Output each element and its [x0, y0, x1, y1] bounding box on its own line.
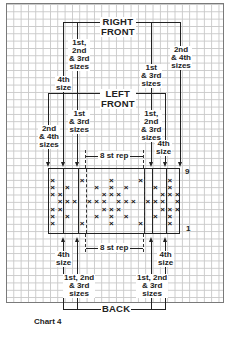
size-label-lf-24: 2nd & 4th sizes	[38, 125, 60, 149]
stitch-x-icon: ×	[56, 206, 63, 213]
stitch-chart: ××××××××××××××××××××××××××××××××××××××××…	[48, 168, 180, 234]
stitch-x-icon: ×	[93, 213, 100, 220]
size-label-rf-4th: 4th size	[55, 76, 72, 92]
size-label-lf-13: 1st & 3rd sizes	[68, 110, 90, 134]
stitch-x-icon: ×	[71, 198, 78, 205]
right-front-label: RIGHT FRONT	[100, 17, 136, 37]
stitch-x-icon: ×	[108, 191, 115, 198]
repeat-label-top: 8 st rep	[98, 151, 130, 160]
back-label: BACK	[101, 304, 131, 314]
right-front-4th-line	[63, 22, 64, 162]
stitch-x-icon: ×	[122, 184, 129, 191]
stitch-x-icon: ×	[115, 206, 122, 213]
stitch-x-icon: ×	[174, 206, 181, 213]
stitch-x-icon: ×	[166, 191, 173, 198]
right-front-24-line	[180, 22, 181, 162]
stitch-x-icon: ×	[49, 191, 56, 198]
stitch-x-icon: ×	[64, 198, 71, 205]
stitch-x-icon: ×	[152, 213, 159, 220]
size-label-bk-4th-left: 4th size	[55, 251, 72, 267]
stitch-x-icon: ×	[152, 184, 159, 191]
size-label-rf-24: 2nd & 4th sizes	[170, 46, 192, 70]
row-label-top: 9	[185, 167, 189, 176]
size-label-bk-123-left: 1st, 2nd & 3rd sizes	[63, 274, 95, 298]
arrow-down-icon	[149, 162, 153, 167]
stitch-x-icon: ×	[166, 220, 173, 227]
stitch-x-icon: ×	[78, 220, 85, 227]
size-label-rf-13: 1st & 3rd sizes	[140, 64, 162, 88]
repeat-label-bottom: 8 st rep	[98, 243, 130, 252]
repeat-dash-right-top	[143, 150, 144, 168]
repeat-dash-left-bottom	[85, 234, 86, 252]
stitch-x-icon: ×	[137, 177, 144, 184]
chart-title: Chart 4	[34, 317, 62, 326]
left-front-label: LEFT FRONT	[100, 89, 136, 109]
arrow-down-icon	[46, 162, 50, 167]
size-label-bk-123-right: 1st, 2nd & 3rd sizes	[136, 274, 168, 298]
stitch-x-icon: ×	[93, 184, 100, 191]
stitch-x-icon: ×	[100, 206, 107, 213]
stitch-x-icon: ×	[159, 206, 166, 213]
arrow-down-icon	[163, 162, 167, 167]
arrow-down-icon	[178, 162, 182, 167]
stitch-x-icon: ×	[144, 198, 151, 205]
stitch-x-icon: ×	[49, 220, 56, 227]
row-label-bottom: 1	[186, 224, 190, 233]
size-label-rf-123: 1st, 2nd & 3rd sizes	[68, 39, 90, 71]
stitch-x-icon: ×	[64, 184, 71, 191]
stitch-x-icon: ×	[130, 198, 137, 205]
repeat-dash-left-top	[85, 150, 86, 168]
stitch-x-icon: ×	[78, 177, 85, 184]
stitch-x-icon: ×	[64, 213, 71, 220]
stitch-x-icon: ×	[93, 198, 100, 205]
stitch-x-icon: ×	[122, 198, 129, 205]
arrow-down-icon	[75, 162, 79, 167]
repeat-dash-right-bottom	[143, 234, 144, 252]
arrow-down-icon	[61, 162, 65, 167]
stitch-x-icon: ×	[137, 220, 144, 227]
size-label-lf-123: 1st, 2nd & 3rd sizes	[140, 110, 162, 142]
stitch-x-icon: ×	[122, 213, 129, 220]
stitch-x-icon: ×	[86, 198, 93, 205]
stitch-x-icon: ×	[152, 198, 159, 205]
stitch-x-icon: ×	[108, 220, 115, 227]
size-label-bk-4th-right: 4th size	[157, 251, 174, 267]
size-label-lf-4th: 4th size	[155, 140, 172, 156]
